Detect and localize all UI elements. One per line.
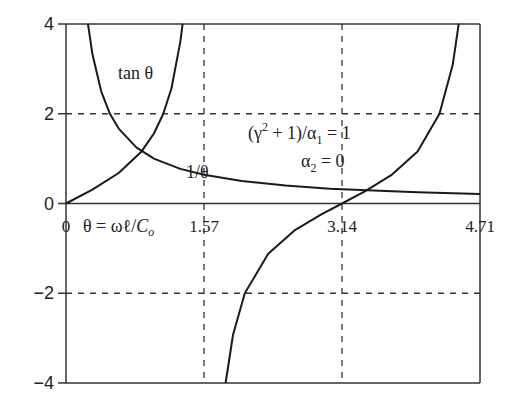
x-tick-label: 3.14	[327, 217, 357, 236]
x-tick-label: 0	[62, 217, 71, 236]
x-tick-label: 4.71	[465, 217, 495, 236]
label-tan-theta: tan θ	[118, 63, 153, 83]
label-theta-definition: θ = ωℓ/Co	[83, 216, 154, 239]
y-tick-label: 4	[44, 14, 54, 34]
curve-inverse-theta	[88, 24, 480, 194]
x-tick-label: 1.57	[189, 217, 219, 236]
y-tick-label: 0	[44, 194, 54, 214]
label-alpha2: α2 = 0	[301, 151, 345, 175]
y-tick-label: −4	[33, 373, 54, 393]
label-parameter-ratio: (γ2 + 1)/α1 = 1	[248, 120, 351, 147]
label-inverse-theta: 1/θ	[186, 162, 209, 182]
y-tick-label: 2	[44, 104, 54, 124]
chart: 420−2−401.573.144.71 tan θ 1/θ θ = ωℓ/Co…	[0, 0, 525, 408]
y-tick-label: −2	[33, 283, 54, 303]
